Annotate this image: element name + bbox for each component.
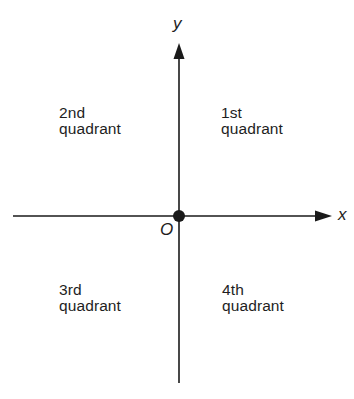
origin-label: O <box>160 221 173 238</box>
x-axis-arrow-icon <box>315 211 332 222</box>
quadrant-1-label: 1st quadrant <box>221 105 283 137</box>
quadrant-2-word: quadrant <box>59 121 121 137</box>
quadrant-3-word: quadrant <box>59 298 121 314</box>
quadrant-3-ordinal: 3rd <box>59 282 121 298</box>
x-axis-label: x <box>338 206 347 223</box>
quadrant-2-label: 2nd quadrant <box>59 105 121 137</box>
y-axis-label: y <box>173 15 182 32</box>
quadrant-4-label: 4th quadrant <box>222 282 284 314</box>
quadrant-3-label: 3rd quadrant <box>59 282 121 314</box>
quadrant-diagram: y x O 2nd quadrant 1st quadrant 3rd quad… <box>0 0 354 399</box>
axes-graphic <box>0 0 354 399</box>
quadrant-1-ordinal: 1st <box>221 105 283 121</box>
quadrant-2-ordinal: 2nd <box>59 105 121 121</box>
quadrant-1-word: quadrant <box>221 121 283 137</box>
quadrant-4-word: quadrant <box>222 298 284 314</box>
quadrant-4-ordinal: 4th <box>222 282 284 298</box>
y-axis-arrow-icon <box>174 43 185 59</box>
origin-dot-icon <box>173 210 185 222</box>
